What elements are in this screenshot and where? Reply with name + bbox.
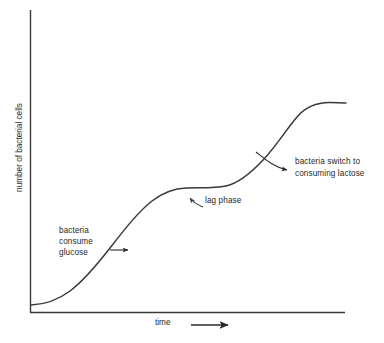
growth-curve-figure: number of bacterial cells time bacteria …	[0, 0, 384, 343]
annotation-lactose: bacteria switch to consuming lactose	[295, 156, 365, 179]
x-axis-label: time	[155, 318, 170, 327]
lactose-arrow-icon	[256, 152, 287, 170]
growth-curve-path	[31, 103, 346, 305]
annotation-glucose-line-3: glucose	[59, 247, 93, 258]
y-axis-label: number of bacterial cells	[15, 83, 24, 213]
annotation-lactose-line-2: consuming lactose	[295, 168, 365, 180]
annotation-glucose-line-1: bacteria	[59, 225, 93, 236]
lag-phase-arrow-icon	[190, 198, 203, 207]
annotation-glucose-line-2: consume	[59, 236, 93, 247]
annotation-lactose-line-1: bacteria switch to	[295, 156, 365, 168]
annotation-glucose: bacteria consume glucose	[59, 225, 93, 259]
annotation-lag-phase-line-1: lag phase	[205, 195, 241, 206]
annotation-lag-phase: lag phase	[205, 195, 241, 206]
